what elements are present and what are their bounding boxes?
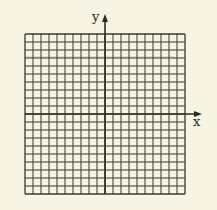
y-axis-arrow-icon (102, 14, 108, 22)
y-axis-label: y (92, 10, 99, 23)
x-axis-label: x (193, 115, 200, 128)
coordinate-plane (0, 0, 217, 210)
